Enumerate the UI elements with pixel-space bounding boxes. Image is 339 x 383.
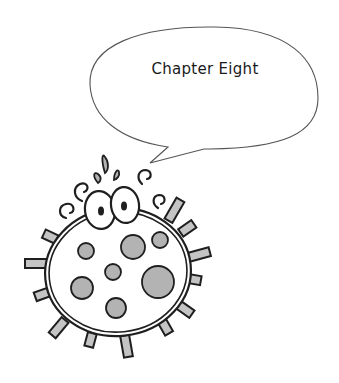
chapter-illustration: Chapter Eight — [0, 0, 339, 383]
head-tuft — [94, 155, 119, 183]
germ-illustration — [0, 0, 339, 383]
speech-bubble — [90, 27, 318, 163]
chapter-title: Chapter Eight — [110, 60, 300, 78]
